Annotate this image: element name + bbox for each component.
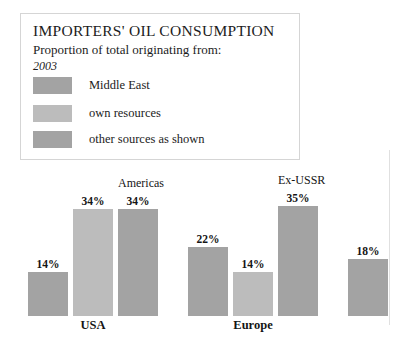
- bar-value-label: 34%: [73, 195, 113, 207]
- bar: 34%Americas: [118, 209, 158, 316]
- bar-value-label: 35%: [278, 192, 318, 204]
- bar: 18%: [348, 259, 388, 316]
- chart-year: 2003: [33, 59, 57, 74]
- bar-value-label: 14%: [233, 258, 273, 270]
- legend-label-own-resources: own resources: [89, 105, 161, 122]
- chart-subtitle: Proportion of total originating from:: [33, 42, 221, 58]
- legend-label-middle-east: Middle East: [89, 77, 150, 94]
- panel-edge-rule: [389, 150, 390, 325]
- bar-top-label: Ex-USSR: [278, 173, 318, 188]
- bar-value-label: 34%: [118, 195, 158, 207]
- bar: 34%: [73, 209, 113, 316]
- bar: 22%: [188, 247, 228, 316]
- bar-value-label: 18%: [348, 245, 388, 257]
- chart-title: IMPORTERS' OIL CONSUMPTION: [33, 22, 275, 40]
- bar-value-label: 22%: [188, 233, 228, 245]
- legend-swatch-own-resources: [33, 105, 72, 122]
- legend-swatch-middle-east: [33, 77, 72, 94]
- bar: 14%: [28, 272, 68, 316]
- legend-label-other-sources: other sources as shown: [89, 131, 205, 148]
- group-axis-label: USA: [73, 318, 113, 333]
- bar-top-label: Americas: [118, 176, 158, 191]
- bar: 35%Ex-USSR: [278, 206, 318, 316]
- bar-value-label: 14%: [28, 258, 68, 270]
- legend-panel: IMPORTERS' OIL CONSUMPTION Proportion of…: [20, 13, 300, 160]
- legend-swatch-other-sources: [33, 131, 72, 148]
- bar: 14%: [233, 272, 273, 316]
- group-axis-label: Europe: [233, 318, 273, 333]
